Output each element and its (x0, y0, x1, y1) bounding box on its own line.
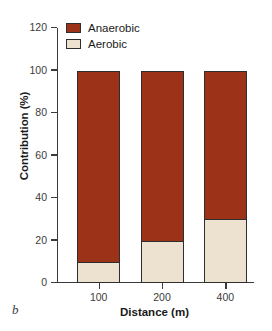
y-tick-80: 80 (51, 112, 57, 113)
y-tick-20: 20 (51, 239, 57, 240)
legend-swatch-aerobic (66, 39, 81, 49)
bar-segment-aerobic-100[interactable] (77, 262, 120, 283)
y-tick-40: 40 (51, 197, 57, 198)
bar-segment-aerobic-400[interactable] (204, 219, 247, 283)
y-tick-label-40: 40 (35, 191, 47, 203)
legend-item-anaerobic[interactable]: Anaerobic (66, 20, 140, 36)
y-tick-60: 60 (51, 154, 57, 155)
y-tick-0: 0 (51, 282, 57, 283)
chart-legend: AnaerobicAerobic (66, 20, 140, 52)
y-tick-label-0: 0 (41, 276, 47, 288)
x-tick-label-200: 200 (153, 291, 171, 303)
x-tick-200 (162, 283, 163, 289)
x-tick-400 (225, 283, 226, 289)
y-tick-label-20: 20 (35, 234, 47, 246)
bar-segment-anaerobic-100[interactable] (77, 71, 120, 284)
figure-panel: Contribution (%) 020406080100120 1002004… (0, 0, 272, 331)
x-axis-title: Distance (m) (57, 306, 252, 318)
y-tick-label-80: 80 (35, 106, 47, 118)
y-tick-label-120: 120 (29, 21, 47, 33)
legend-item-aerobic[interactable]: Aerobic (66, 36, 140, 52)
y-tick-label-60: 60 (35, 149, 47, 161)
plot-area: 020406080100120 100200400 (57, 28, 247, 283)
bar-group-100[interactable]: 100 (77, 28, 120, 283)
y-axis-title: Contribution (%) (18, 66, 30, 206)
y-axis-line (57, 28, 58, 283)
x-tick-label-100: 100 (90, 291, 108, 303)
y-tick-label-100: 100 (29, 64, 47, 76)
x-tick-label-400: 400 (217, 291, 235, 303)
y-tick-120: 120 (51, 27, 57, 28)
legend-swatch-anaerobic (66, 23, 81, 33)
legend-label-anaerobic: Anaerobic (88, 22, 140, 34)
panel-letter: b (12, 302, 19, 318)
bar-group-200[interactable]: 200 (141, 28, 184, 283)
bar-segment-aerobic-200[interactable] (141, 241, 184, 284)
y-tick-100: 100 (51, 69, 57, 70)
legend-label-aerobic: Aerobic (88, 38, 127, 50)
bar-group-400[interactable]: 400 (204, 28, 247, 283)
x-tick-100 (99, 283, 100, 289)
